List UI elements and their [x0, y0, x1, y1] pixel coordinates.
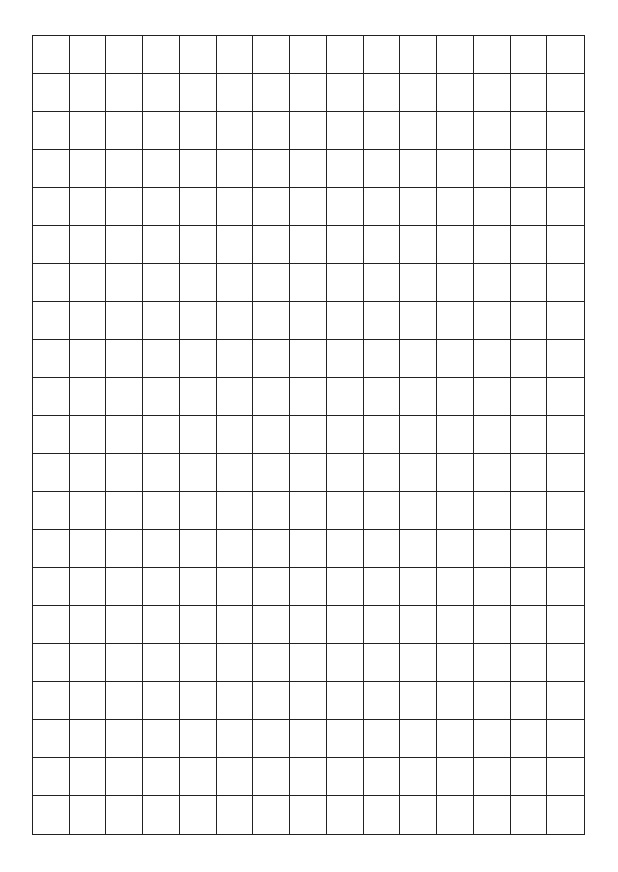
grid-cell	[180, 454, 217, 492]
grid-cell	[33, 530, 70, 568]
grid-cell	[547, 150, 584, 188]
grid-cell	[33, 454, 70, 492]
grid-cell	[511, 264, 548, 302]
grid-cell	[437, 112, 474, 150]
grid-cell	[33, 416, 70, 454]
grid-cell	[180, 492, 217, 530]
grid-cell	[474, 606, 511, 644]
grid-cell	[437, 150, 474, 188]
grid-paper	[32, 35, 585, 835]
grid-cell	[547, 416, 584, 454]
grid-cell	[106, 264, 143, 302]
grid-cell	[547, 188, 584, 226]
grid-cell	[33, 302, 70, 340]
grid-cell	[437, 492, 474, 530]
grid-cell	[180, 568, 217, 606]
grid-cell	[253, 492, 290, 530]
grid-cell	[217, 226, 254, 264]
grid-cell	[511, 606, 548, 644]
grid-cell	[217, 74, 254, 112]
grid-cell	[364, 682, 401, 720]
grid-cell	[400, 796, 437, 834]
grid-cell	[400, 606, 437, 644]
grid-cell	[33, 644, 70, 682]
grid-cell	[106, 226, 143, 264]
grid-cell	[400, 378, 437, 416]
grid-cell	[437, 796, 474, 834]
grid-cell	[364, 720, 401, 758]
grid-cell	[143, 264, 180, 302]
grid-cell	[511, 188, 548, 226]
grid-cell	[327, 264, 364, 302]
grid-cell	[511, 416, 548, 454]
grid-cell	[143, 112, 180, 150]
grid-cell	[327, 530, 364, 568]
grid-cell	[511, 644, 548, 682]
grid-cell	[290, 758, 327, 796]
grid-cell	[253, 568, 290, 606]
grid-cell	[547, 226, 584, 264]
grid-cell	[70, 340, 107, 378]
grid-cell	[70, 416, 107, 454]
grid-cell	[70, 568, 107, 606]
grid-cell	[217, 264, 254, 302]
grid-cell	[437, 264, 474, 302]
grid-cell	[511, 74, 548, 112]
grid-cell	[290, 264, 327, 302]
grid-cell	[143, 796, 180, 834]
grid-cell	[180, 758, 217, 796]
grid-cell	[290, 454, 327, 492]
grid-cell	[327, 74, 364, 112]
grid-cell	[511, 492, 548, 530]
grid-cell	[33, 378, 70, 416]
grid-cell	[474, 416, 511, 454]
grid-cell	[290, 606, 327, 644]
grid-cell	[474, 682, 511, 720]
clipped-header-text: ˙	[198, 0, 202, 8]
grid-cell	[364, 530, 401, 568]
grid-cell	[327, 758, 364, 796]
grid-cell	[217, 416, 254, 454]
grid-cell	[547, 644, 584, 682]
grid-cell	[547, 378, 584, 416]
grid-cell	[253, 112, 290, 150]
grid-cell	[290, 416, 327, 454]
grid-cell	[33, 188, 70, 226]
grid-cell	[143, 644, 180, 682]
grid-cell	[364, 74, 401, 112]
grid-cell	[70, 188, 107, 226]
grid-cell	[400, 36, 437, 74]
grid-cell	[290, 74, 327, 112]
grid-cell	[327, 682, 364, 720]
grid-cell	[180, 188, 217, 226]
grid-cell	[437, 530, 474, 568]
grid-cell	[547, 36, 584, 74]
grid-cell	[217, 606, 254, 644]
grid-cell	[511, 226, 548, 264]
grid-cell	[217, 758, 254, 796]
grid-cell	[180, 74, 217, 112]
grid-cell	[106, 74, 143, 112]
grid-cell	[364, 416, 401, 454]
grid-cell	[511, 796, 548, 834]
grid-cell	[547, 796, 584, 834]
grid-cell	[70, 530, 107, 568]
grid-cell	[143, 682, 180, 720]
grid-cell	[70, 226, 107, 264]
grid-cell	[437, 720, 474, 758]
grid-cell	[327, 796, 364, 834]
grid-cell	[253, 416, 290, 454]
grid-cell	[364, 378, 401, 416]
grid-cell	[106, 36, 143, 74]
grid-cell	[33, 758, 70, 796]
grid-cell	[143, 150, 180, 188]
grid-cell	[253, 454, 290, 492]
grid-cell	[106, 188, 143, 226]
grid-cell	[217, 454, 254, 492]
grid-cell	[327, 226, 364, 264]
grid-cell	[400, 758, 437, 796]
grid-cell	[364, 302, 401, 340]
grid-cell	[327, 644, 364, 682]
grid-cell	[180, 112, 217, 150]
grid-cell	[70, 36, 107, 74]
